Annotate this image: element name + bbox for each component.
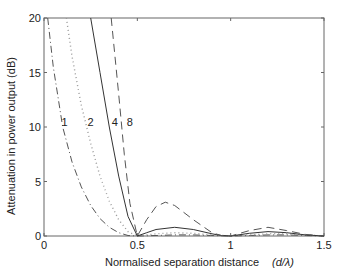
curve-label-2: 2	[88, 116, 94, 128]
x-axis-unit: (d/λ)	[272, 256, 294, 268]
x-axis-label: Normalised separation distance	[105, 256, 259, 268]
y-tick-label: 15	[29, 67, 41, 79]
y-axis-label: Attenuation in power output (dB)	[5, 57, 17, 215]
curve-label-8: 8	[127, 116, 133, 128]
x-tick-label: 0	[41, 239, 47, 251]
attenuation-line-chart: 00.511.505101520 1248 Attenuation in pow…	[0, 0, 347, 273]
plot-frame	[44, 18, 324, 236]
x-tick-label: 0.5	[130, 239, 145, 251]
series-2-curve	[66, 18, 324, 236]
y-tick-label: 0	[35, 230, 41, 242]
curve-labels: 1248	[61, 116, 132, 128]
y-tick-label: 20	[29, 12, 41, 24]
curve-label-4: 4	[112, 116, 118, 128]
series-4-curve	[91, 18, 324, 236]
plot-axes: 00.511.505101520	[29, 12, 332, 251]
x-tick-label: 1	[228, 239, 234, 251]
y-tick-label: 10	[29, 121, 41, 133]
x-tick-label: 1.5	[316, 239, 331, 251]
curve-label-1: 1	[61, 116, 67, 128]
y-tick-label: 5	[35, 176, 41, 188]
series-8-curve	[111, 18, 324, 236]
